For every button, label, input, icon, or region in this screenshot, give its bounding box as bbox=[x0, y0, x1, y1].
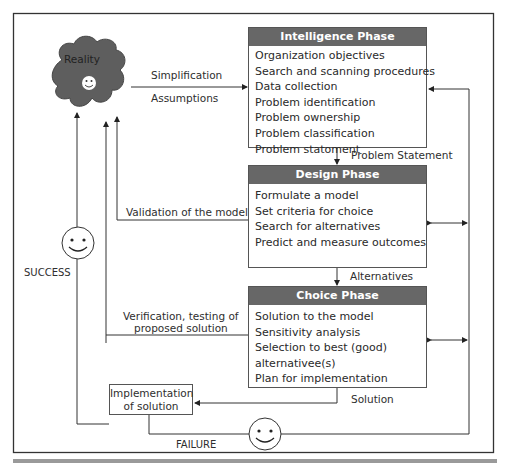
phase-item: Data collection bbox=[255, 79, 426, 95]
phase-item: Solution to the model bbox=[255, 309, 426, 325]
smiley-icon-success bbox=[62, 227, 94, 259]
phase-title: Intelligence Phase bbox=[249, 28, 426, 46]
phase-item: Problem ownership bbox=[255, 110, 426, 126]
phase-item: Plan for implementation bbox=[255, 371, 426, 387]
smiley-icon-failure bbox=[249, 418, 281, 450]
edge-label-failure: FAILURE bbox=[176, 440, 216, 450]
bottom-bar bbox=[13, 459, 497, 463]
edge-label-validation: Validation of the model bbox=[126, 207, 248, 218]
edge-label-simplification: Simplification bbox=[151, 70, 222, 81]
reality-cloud bbox=[52, 36, 125, 106]
phase-item: Formulate a model bbox=[255, 188, 426, 204]
reality-label: Reality bbox=[64, 53, 100, 65]
smiley-icon-reality bbox=[82, 76, 96, 90]
phase-item: Problem identification bbox=[255, 95, 426, 111]
phase-item: Selection to best (good) bbox=[255, 340, 426, 356]
edge-label-alternatives: Alternatives bbox=[350, 271, 413, 282]
implementation-line1: Implementation bbox=[110, 387, 192, 400]
edge-label-assumptions: Assumptions bbox=[151, 93, 218, 104]
phase-item: Search and scanning procedures bbox=[255, 64, 426, 80]
edge-label-verification-2: proposed solution bbox=[134, 323, 228, 334]
phase-item: alternativee(s) bbox=[255, 356, 426, 372]
edge-label-verification-1: Verification, testing of bbox=[123, 311, 239, 322]
design-phase-box: Design Phase Formulate a model Set crite… bbox=[248, 165, 427, 268]
phase-item: Sensitivity analysis bbox=[255, 325, 426, 341]
edge-label-solution: Solution bbox=[351, 394, 394, 405]
phase-item: Problem statoment bbox=[255, 142, 426, 158]
implementation-line2: of solution bbox=[110, 400, 192, 413]
phase-item: Organization objectives bbox=[255, 48, 426, 64]
implementation-box: Implementation of solution bbox=[109, 384, 193, 415]
phase-item: Problem classification bbox=[255, 126, 426, 142]
phase-item: Predict and measure outcomes bbox=[255, 235, 426, 251]
phase-title: Choice Phase bbox=[249, 287, 426, 305]
phase-item: Search for alternatives bbox=[255, 219, 426, 235]
phase-title: Design Phase bbox=[249, 166, 426, 184]
choice-phase-box: Choice Phase Solution to the model Sensi… bbox=[248, 286, 427, 388]
intelligence-phase-box: Intelligence Phase Organization objectiv… bbox=[248, 27, 427, 148]
phase-item: Set criteria for choice bbox=[255, 204, 426, 220]
edge-label-success: SUCCESS bbox=[24, 268, 71, 278]
